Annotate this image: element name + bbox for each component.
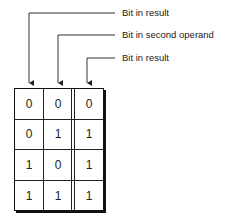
leader-line-1 <box>29 13 115 83</box>
table-row: 0 0 0 <box>15 89 103 120</box>
leader-line-3 <box>87 58 115 83</box>
callout-label-2: Bit in second operand <box>122 30 214 40</box>
table-cell: 1 <box>75 181 103 212</box>
table-cell: 1 <box>44 181 72 212</box>
table-row: 1 0 1 <box>15 150 103 181</box>
table-cell: 1 <box>75 120 103 150</box>
table-cell: 1 <box>44 120 72 150</box>
table-cell: 1 <box>15 150 44 180</box>
callout-label-1: Bit in result <box>122 8 169 18</box>
table-cell: 0 <box>44 89 72 119</box>
table-cell: 0 <box>15 120 44 150</box>
callout-label-3: Bit in result <box>122 53 169 63</box>
table-row: 0 1 1 <box>15 120 103 151</box>
table-cell: 0 <box>75 89 103 119</box>
truth-table-diagram: Bit in result Bit in second operand Bit … <box>0 0 225 223</box>
table-cell: 0 <box>15 89 44 119</box>
table-cell: 1 <box>75 150 103 180</box>
table-cell: 1 <box>15 181 44 212</box>
table-cell: 0 <box>44 150 72 180</box>
table-row: 1 1 1 <box>15 181 103 212</box>
truth-table: 0 0 0 0 1 1 1 0 1 1 1 1 <box>14 88 104 211</box>
